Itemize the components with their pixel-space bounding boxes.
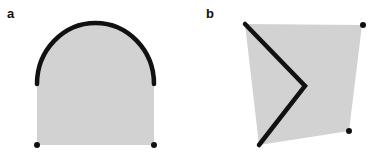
point-a-bottom-right [151,142,157,148]
panel-a [34,23,157,148]
point-b-bottom-right [346,128,352,134]
panel-b [245,22,366,145]
diagram-canvas [0,0,374,161]
point-a-bottom-left [34,142,40,148]
point-b-top-right [360,22,366,28]
